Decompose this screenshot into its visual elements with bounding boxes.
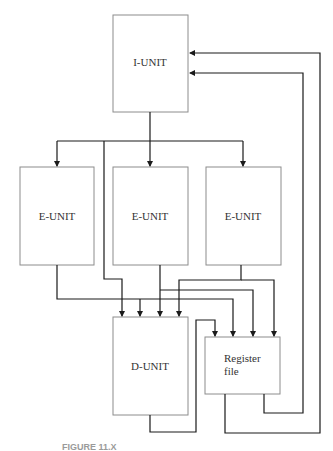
- figure-caption: FIGURE 11.X: [62, 442, 117, 451]
- e-unit-1-label: E-UNIT: [39, 210, 76, 222]
- d-unit-box: D-UNIT: [113, 317, 188, 415]
- register-file-box: Register file: [205, 337, 280, 394]
- i-unit-label: I-UNIT: [133, 56, 167, 68]
- register-file-label-1: Register: [224, 352, 261, 364]
- pipeline-diagram: I-UNIT E-UNIT E-UNIT E-UNIT D-UNIT Regis…: [0, 0, 333, 451]
- e-unit-1-box: E-UNIT: [20, 167, 94, 265]
- e-unit-2-label: E-UNIT: [132, 210, 169, 222]
- e-unit-3-label: E-UNIT: [225, 210, 262, 222]
- e-unit-3-box: E-UNIT: [206, 167, 281, 265]
- e-unit-2-box: E-UNIT: [113, 167, 188, 265]
- d-unit-label: D-UNIT: [131, 360, 169, 372]
- register-file-label-2: file: [224, 365, 239, 377]
- e-unit-3-output-wires: [179, 265, 274, 336]
- i-unit-box: I-UNIT: [113, 15, 188, 112]
